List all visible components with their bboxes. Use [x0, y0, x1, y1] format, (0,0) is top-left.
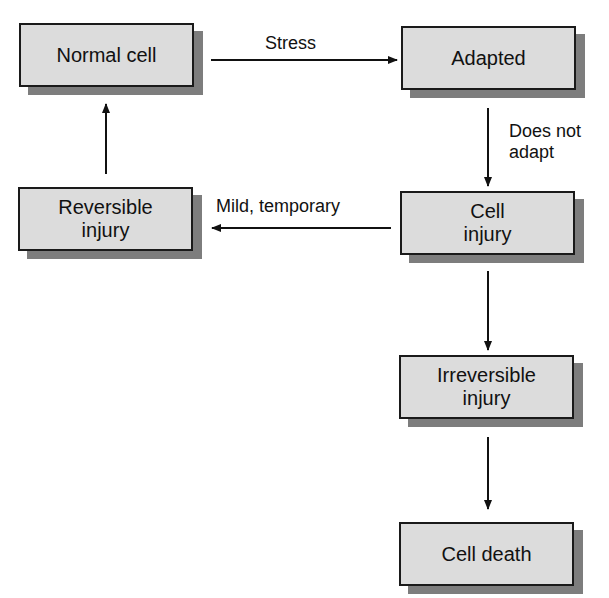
- edge-label-does-not-adapt: Does not adapt: [509, 121, 581, 163]
- normal-cell-text: Normal cell: [56, 44, 156, 67]
- irreversible-text-line2: injury: [437, 387, 536, 410]
- cell-injury-text-line2: injury: [464, 223, 512, 246]
- cell-death-text: Cell death: [441, 543, 531, 566]
- node-reversible-injury: Reversibleinjury: [18, 187, 193, 251]
- reversible-text-line1: Reversible: [58, 196, 152, 219]
- node-irreversible-injury: Irreversibleinjury: [399, 355, 574, 419]
- node-normal-cell: Normal cell: [19, 23, 194, 87]
- node-label: Normal cell: [19, 23, 194, 87]
- node-label: Cell death: [399, 522, 574, 586]
- node-cell-injury: Cellinjury: [400, 191, 575, 255]
- edge-label-mild-temporary: Mild, temporary: [216, 196, 340, 217]
- cell-injury-text-line1: Cell: [464, 200, 512, 223]
- does-not-line1: Does not: [509, 121, 581, 142]
- node-adapted: Adapted: [401, 26, 576, 90]
- node-label: Irreversibleinjury: [399, 355, 574, 419]
- node-label: Cellinjury: [400, 191, 575, 255]
- irreversible-text-line1: Irreversible: [437, 364, 536, 387]
- edge-label-stress: Stress: [265, 33, 316, 54]
- does-not-line2: adapt: [509, 142, 581, 163]
- node-label: Reversibleinjury: [18, 187, 193, 251]
- node-cell-death: Cell death: [399, 522, 574, 586]
- node-label: Adapted: [401, 26, 576, 90]
- adapted-text: Adapted: [451, 47, 526, 70]
- reversible-text-line2: injury: [58, 219, 152, 242]
